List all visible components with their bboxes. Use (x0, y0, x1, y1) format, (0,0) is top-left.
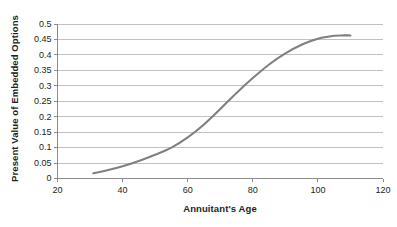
y-tick-label: 0.45 (34, 34, 52, 44)
x-tick-label: 60 (183, 185, 193, 195)
x-tick-label: 20 (52, 185, 62, 195)
chart-plot-area: 00.050.10.150.20.250.30.350.40.450.5 204… (0, 0, 397, 227)
y-axis-ticks: 00.050.10.150.20.250.30.350.40.450.5 (34, 19, 58, 184)
y-tick-label: 0.15 (34, 127, 52, 137)
y-tick-label: 0.4 (39, 50, 52, 60)
y-tick-label: 0.3 (39, 81, 52, 91)
y-tick-label: 0 (46, 173, 51, 183)
x-axis-title: Annuitant's Age (57, 203, 383, 214)
gridlines (58, 24, 384, 163)
x-axis-ticks: 20406080100120 (52, 179, 390, 196)
y-tick-label: 0.1 (39, 142, 52, 152)
y-tick-label: 0.35 (34, 65, 52, 75)
chart-figure: Present Value of Embedded Options 00.050… (0, 0, 397, 227)
x-tick-label: 40 (118, 185, 128, 195)
y-tick-label: 0.5 (39, 19, 52, 29)
data-series-line (93, 35, 350, 173)
x-tick-label: 120 (375, 185, 390, 195)
y-tick-label: 0.2 (39, 112, 52, 122)
x-tick-label: 100 (310, 185, 325, 195)
y-tick-label: 0.05 (34, 158, 52, 168)
x-tick-label: 80 (248, 185, 258, 195)
y-tick-label: 0.25 (34, 96, 52, 106)
